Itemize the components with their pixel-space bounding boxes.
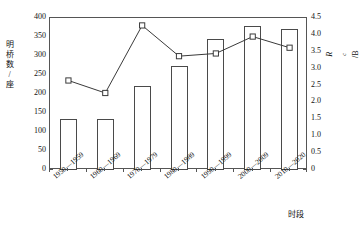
y-axis-right-title-unit: /B [350,48,361,61]
y-axis-left-tick-label: 150 [22,108,46,116]
y-axis-right-tick-label: 1.0 [311,131,335,139]
line-marker [140,23,145,28]
y-axis-left-tick-label: 100 [22,127,46,135]
x-axis-tick-mark [196,168,197,172]
line-marker [250,34,255,39]
y-axis-right-tick-label: 3.0 [311,64,335,72]
x-axis-title: 时段 [288,208,304,219]
y-axis-left-tick-label: 50 [22,146,46,154]
line-marker [176,54,181,59]
x-axis-tick-mark [270,168,271,172]
x-axis-tick-mark [123,168,124,172]
y-axis-right-tick-label: 2.0 [311,97,335,105]
plot-area [49,17,307,169]
y-axis-right-tick-label: 3.5 [311,47,335,55]
y-axis-left-tick-label: 400 [22,13,46,21]
x-axis-tick-mark [86,168,87,172]
x-axis-tick-mark [49,168,50,172]
y-axis-left-title: 明桥数/座 [4,40,15,90]
y-axis-left-title-char: 桥 [4,50,15,60]
y-axis-right-tick-label: 4.0 [311,30,335,38]
line-marker [103,90,108,95]
y-axis-left-tick-label: 250 [22,70,46,78]
line-marker [66,78,71,83]
y-axis-right-tick-label: 4.5 [311,13,335,21]
y-axis-right-title-subscript: c [341,53,347,56]
y-axis-right-tick-label: 0.5 [311,148,335,156]
x-axis-tick-mark [160,168,161,172]
y-axis-left-tick-label: 300 [22,51,46,59]
x-axis-tick-mark [233,168,234,172]
x-axis-tick-mark [306,168,307,172]
y-axis-left-tick-label: 0 [22,165,46,173]
y-axis-right-tick-label: 0 [311,165,335,173]
line-marker [287,45,292,50]
y-axis-left-tick-label: 200 [22,89,46,97]
y-axis-left-title-char: 座 [4,80,15,90]
y-axis-right-tick-label: 2.5 [311,81,335,89]
line-marker [213,51,218,56]
y-axis-left-tick-label: 350 [22,32,46,40]
line-series-layer [50,18,308,170]
y-axis-right-title: Rc/B [336,36,349,73]
y-axis-left-title-char: 数 [4,60,15,70]
y-axis-left-title-char: / [4,70,15,80]
y-axis-left-title-char: 明 [4,40,15,50]
y-axis-right-tick-label: 1.5 [311,114,335,122]
